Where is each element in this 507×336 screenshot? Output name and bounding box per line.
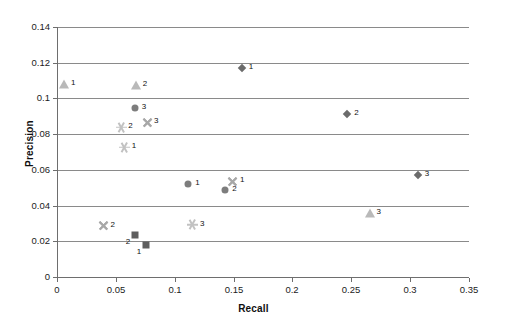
y-tick-mark bbox=[53, 206, 57, 207]
data-point-label: 1 bbox=[240, 176, 244, 184]
circle-marker-icon bbox=[131, 104, 138, 111]
triangle-marker-icon bbox=[59, 80, 69, 89]
y-tick-mark bbox=[53, 63, 57, 64]
asterisk-marker-icon bbox=[119, 142, 130, 153]
data-point-label: 3 bbox=[154, 117, 158, 125]
data-point-label: 3 bbox=[142, 103, 146, 111]
x-tick-mark bbox=[234, 278, 235, 282]
data-point-label: 1 bbox=[249, 63, 253, 71]
x-tick-mark bbox=[175, 278, 176, 282]
y-tick-label: 0 bbox=[4, 272, 50, 281]
cross-marker-icon bbox=[142, 117, 153, 128]
data-point-label: 1 bbox=[195, 179, 199, 187]
gridline bbox=[57, 206, 469, 207]
y-tick-label-wrap: 0 bbox=[0, 272, 50, 282]
y-tick-label: 0.04 bbox=[4, 201, 50, 210]
x-tick-mark bbox=[351, 278, 352, 282]
x-tick-mark bbox=[116, 278, 117, 282]
triangle-marker-icon bbox=[365, 209, 375, 218]
x-axis-line bbox=[57, 277, 469, 278]
square-marker-icon bbox=[131, 231, 138, 238]
triangle-marker-icon bbox=[131, 81, 141, 90]
data-point-label: 2 bbox=[110, 221, 114, 229]
y-tick-label-wrap: 0.14 bbox=[0, 22, 50, 32]
x-tick-label: 0.3 bbox=[390, 285, 430, 295]
y-tick-mark bbox=[53, 134, 57, 135]
x-tick-mark bbox=[410, 278, 411, 282]
square-marker-icon bbox=[142, 242, 149, 249]
y-axis-line bbox=[57, 27, 58, 278]
circle-marker-icon bbox=[185, 180, 192, 187]
data-point-label: 1 bbox=[132, 142, 136, 150]
y-tick-label: 0.12 bbox=[4, 58, 50, 67]
data-point-label: 3 bbox=[425, 170, 429, 178]
y-tick-mark bbox=[53, 170, 57, 171]
data-point-label: 1 bbox=[137, 248, 141, 256]
x-tick-label: 0.05 bbox=[96, 285, 136, 295]
x-tick-label: 0.15 bbox=[214, 285, 254, 295]
gridline bbox=[57, 63, 469, 64]
y-tick-label-wrap: 0.02 bbox=[0, 236, 50, 246]
data-point-label: 2 bbox=[354, 109, 358, 117]
y-tick-mark bbox=[53, 98, 57, 99]
data-point-label: 1 bbox=[71, 79, 75, 87]
x-tick-mark bbox=[57, 278, 58, 282]
y-tick-label: 0.14 bbox=[4, 22, 50, 31]
gridline bbox=[57, 98, 469, 99]
x-tick-mark bbox=[292, 278, 293, 282]
x-tick-label: 0 bbox=[37, 285, 77, 295]
y-tick-label-wrap: 0.12 bbox=[0, 58, 50, 68]
cross-marker-icon bbox=[98, 220, 109, 231]
y-tick-label-wrap: 0.04 bbox=[0, 201, 50, 211]
asterisk-marker-icon bbox=[187, 219, 198, 230]
gridline bbox=[57, 27, 469, 28]
x-tick-mark bbox=[469, 278, 470, 282]
diamond-marker-icon bbox=[238, 64, 246, 72]
y-axis-title: Precision bbox=[24, 99, 35, 189]
cross-marker-icon bbox=[227, 176, 238, 187]
diamond-marker-icon bbox=[414, 171, 422, 179]
data-point-label: 2 bbox=[126, 238, 130, 246]
y-tick-mark bbox=[53, 27, 57, 28]
x-axis-title: Recall bbox=[0, 303, 507, 314]
scatter-chart: 00.020.040.060.080.10.120.14 00.050.10.1… bbox=[0, 0, 507, 336]
y-tick-label: 0.02 bbox=[4, 236, 50, 245]
gridline bbox=[57, 170, 469, 171]
asterisk-marker-icon bbox=[116, 122, 127, 133]
circle-marker-icon bbox=[222, 187, 229, 194]
gridline bbox=[57, 134, 469, 135]
gridline bbox=[57, 241, 469, 242]
x-tick-label: 0.2 bbox=[272, 285, 312, 295]
data-point-label: 2 bbox=[143, 80, 147, 88]
data-point-label: 3 bbox=[377, 208, 381, 216]
data-point-label: 2 bbox=[128, 122, 132, 130]
y-tick-mark bbox=[53, 241, 57, 242]
x-tick-label: 0.1 bbox=[155, 285, 195, 295]
data-point-label: 3 bbox=[200, 220, 204, 228]
x-tick-label: 0.25 bbox=[331, 285, 371, 295]
x-tick-label: 0.35 bbox=[449, 285, 489, 295]
diamond-marker-icon bbox=[343, 109, 351, 117]
